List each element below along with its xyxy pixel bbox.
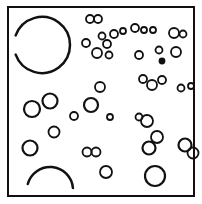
circle [169,28,179,38]
circle [100,166,112,178]
circle [103,40,111,48]
circle [147,80,157,90]
circle [92,48,102,58]
circle [82,39,90,47]
circle [143,142,156,155]
circle [23,141,38,156]
circle [94,15,102,23]
circle [92,148,101,157]
circle [180,31,187,38]
circle [158,76,166,84]
circle [107,114,113,120]
circle [106,52,113,59]
circle [120,28,126,34]
circle [156,47,163,54]
circle [141,115,153,127]
circle [84,98,98,112]
circle [70,112,78,120]
arc [16,17,70,73]
circle [110,30,118,38]
circle [151,131,163,143]
circle [24,101,40,117]
circle [150,27,156,33]
circle [141,27,147,33]
circle [188,83,194,89]
circle [99,33,106,40]
circle [95,82,105,92]
arc-group [16,17,73,188]
circle-group [23,15,199,186]
circle [171,47,181,57]
circle [178,85,185,92]
circle [145,166,165,186]
circle [49,127,60,138]
circle [86,15,94,23]
circle [160,59,165,64]
circle [139,75,147,83]
circles-figure [0,0,202,204]
circle [83,148,92,157]
circle [131,24,139,32]
circle [43,94,58,109]
arc [28,167,73,188]
circle [135,51,143,59]
